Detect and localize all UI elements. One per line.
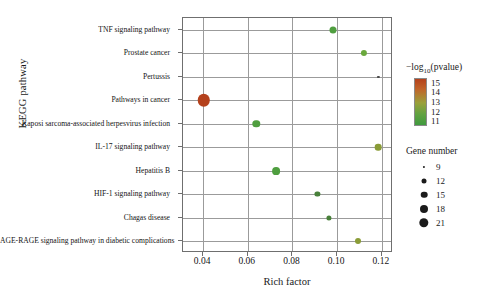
size-legend-dot xyxy=(420,205,428,213)
y-axis-tick-label: Kaposi sarcoma-associated herpesvirus in… xyxy=(0,118,176,127)
data-point xyxy=(375,144,382,151)
size-legend-item: 21 xyxy=(414,216,474,229)
gridline-horizontal xyxy=(183,30,391,31)
size-legend-item: 9 xyxy=(414,160,474,173)
gridline-horizontal xyxy=(183,124,391,125)
y-axis-tick-label: Pertussis xyxy=(0,71,176,80)
x-axis-title: Rich factor xyxy=(182,276,392,287)
gridline-horizontal xyxy=(183,100,391,101)
plot-area xyxy=(182,17,392,252)
size-legend-label: 12 xyxy=(436,176,445,186)
gridline-horizontal xyxy=(183,194,391,195)
size-legend-item: 12 xyxy=(414,174,474,187)
gridline-horizontal xyxy=(183,171,391,172)
x-axis-tick-mark xyxy=(247,252,248,256)
data-point xyxy=(253,120,260,127)
data-point xyxy=(197,94,210,107)
x-axis-tick-label: 0.06 xyxy=(238,256,255,266)
y-axis-tick-label: HIF-1 signaling pathway xyxy=(0,189,176,198)
gridline-horizontal xyxy=(183,53,391,54)
data-point xyxy=(272,167,280,175)
size-legend-item: 18 xyxy=(414,202,474,215)
y-axis-tick-label: Chagas disease xyxy=(0,212,176,221)
size-legend-title: Gene number xyxy=(406,146,457,156)
y-axis-tick-label: IL-17 signaling pathway xyxy=(0,142,176,151)
kegg-bubble-chart: KEGG pathway Rich factor TNF signaling p… xyxy=(0,0,480,305)
x-axis-tick-mark xyxy=(336,252,337,256)
y-axis-tick-label: Prostate cancer xyxy=(0,48,176,57)
y-axis-tick-label: AGE-RAGE signaling pathway in diabetic c… xyxy=(0,236,176,245)
size-legend-label: 9 xyxy=(436,162,441,172)
x-axis-tick-label: 0.12 xyxy=(373,256,390,266)
color-legend-tick-label: 11 xyxy=(431,116,440,126)
data-point xyxy=(355,238,361,244)
color-legend-tick-label: 15 xyxy=(431,78,440,88)
y-axis-tick-label: Hepatitis B xyxy=(0,165,176,174)
size-legend-dot xyxy=(423,165,425,167)
size-legend-label: 18 xyxy=(436,204,445,214)
data-point xyxy=(326,215,331,220)
gridline-horizontal xyxy=(183,147,391,148)
size-legend-dot xyxy=(419,218,428,227)
x-axis-tick-label: 0.10 xyxy=(328,256,345,266)
color-legend-gradient-bar xyxy=(414,78,427,126)
x-axis-tick-mark xyxy=(291,252,292,256)
data-point xyxy=(315,192,320,197)
color-legend-tick-label: 12 xyxy=(431,107,440,117)
size-legend-dot xyxy=(422,178,427,183)
gridline-horizontal xyxy=(183,218,391,219)
color-legend-tick-label: 13 xyxy=(431,97,440,107)
size-legend-label: 15 xyxy=(436,190,445,200)
color-legend-title: −log10(pvalue) xyxy=(406,62,462,75)
data-point xyxy=(361,50,367,56)
data-point xyxy=(329,26,336,33)
y-axis-tick-label: TNF signaling pathway xyxy=(0,24,176,33)
size-legend-dot xyxy=(421,191,428,198)
x-axis-tick-mark xyxy=(381,252,382,256)
x-axis-tick-mark xyxy=(202,252,203,256)
gridline-horizontal xyxy=(183,77,391,78)
x-axis-tick-label: 0.04 xyxy=(194,256,211,266)
size-legend-label: 21 xyxy=(436,218,445,228)
color-legend-tick-label: 14 xyxy=(431,87,440,97)
size-legend-item: 15 xyxy=(414,188,474,201)
color-legend-title-subscript: 10 xyxy=(424,67,431,75)
x-axis-tick-label: 0.08 xyxy=(283,256,300,266)
y-axis-tick-label: Pathways in cancer xyxy=(0,95,176,104)
